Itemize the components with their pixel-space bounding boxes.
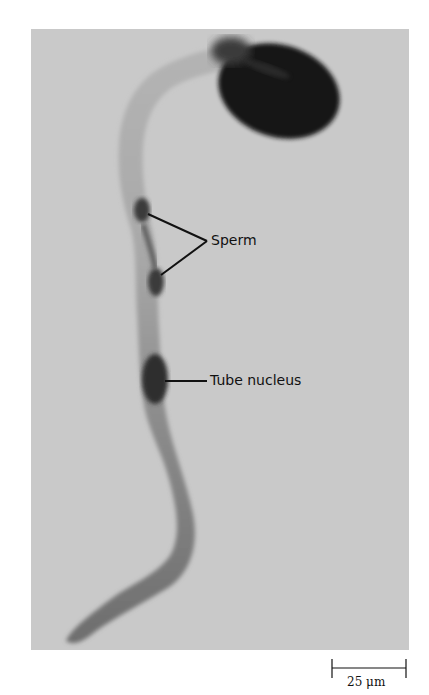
sperm-label: Sperm bbox=[211, 232, 257, 248]
micrograph-drawing bbox=[31, 29, 409, 650]
sperm-nucleus-1 bbox=[134, 198, 150, 222]
sperm-nucleus-2 bbox=[148, 268, 164, 296]
pollen-tube bbox=[66, 47, 229, 643]
tube-nucleus bbox=[142, 354, 168, 404]
pollen-tube-figure: Sperm Tube nucleus 25 μm bbox=[0, 0, 429, 695]
pollen-tube-micrograph bbox=[31, 29, 409, 650]
tube-nucleus-label: Tube nucleus bbox=[210, 372, 301, 388]
scale-bar-label: 25 μm bbox=[347, 675, 385, 689]
